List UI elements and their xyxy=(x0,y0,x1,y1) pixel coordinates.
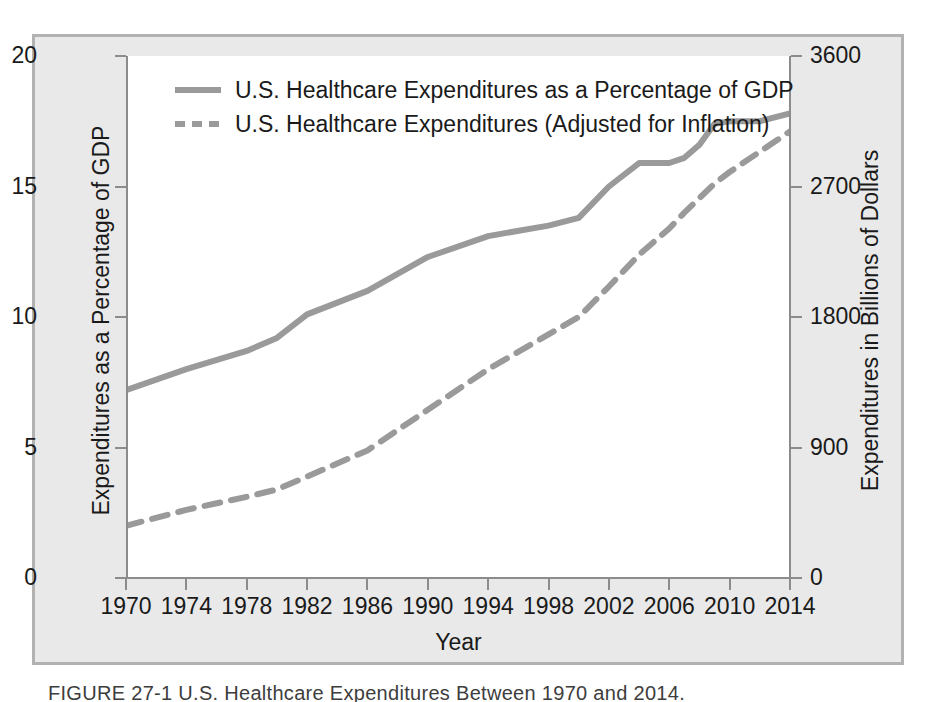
y-axis-right-tick xyxy=(791,577,802,579)
y-axis-left-tick xyxy=(115,447,126,449)
y-axis-right-tick-label: 3600 xyxy=(810,44,861,67)
x-axis-tick xyxy=(427,579,429,590)
legend-item-gdp-percentage: U.S. Healthcare Expenditures as a Percen… xyxy=(175,73,794,107)
y-axis-right-tick-label: 900 xyxy=(810,436,848,459)
x-axis-tick-label: 2014 xyxy=(755,595,825,618)
y-axis-left-tick-label: 20 xyxy=(11,44,37,67)
legend-label-gdp-percentage: U.S. Healthcare Expenditures as a Percen… xyxy=(235,77,794,104)
y-axis-right-tick xyxy=(791,316,802,318)
y-axis-left-tick-label: 10 xyxy=(11,305,37,328)
x-axis-line xyxy=(126,577,791,579)
x-axis-title: Year xyxy=(126,629,791,656)
legend-swatch-solid-line-icon xyxy=(175,87,221,93)
x-axis-tick xyxy=(306,579,308,590)
series-line-gdp-percentage xyxy=(126,113,790,390)
y-axis-left-tick-label: 15 xyxy=(11,175,37,198)
figure-frame: 0510152009001800270036001970197419781982… xyxy=(32,34,904,665)
y-axis-right-tick-label: 0 xyxy=(810,566,823,589)
y-axis-right-tick-label: 1800 xyxy=(810,305,861,328)
series-line-expenditures-dollars xyxy=(126,131,790,525)
y-axis-right-title: Expenditures in Billions of Dollars xyxy=(857,111,884,531)
legend-swatch-dashed-line-icon xyxy=(175,121,221,127)
y-axis-left-tick xyxy=(115,55,126,57)
x-axis-tick xyxy=(125,579,127,590)
y-axis-left-tick xyxy=(115,186,126,188)
x-axis-tick xyxy=(185,579,187,590)
y-axis-left-title: Expenditures as a Percentage of GDP xyxy=(88,111,115,531)
x-axis-tick xyxy=(366,579,368,590)
legend-label-expenditures-dollars: U.S. Healthcare Expenditures (Adjusted f… xyxy=(235,111,769,138)
x-axis-tick xyxy=(789,579,791,590)
y-axis-right-tick xyxy=(791,447,802,449)
y-axis-right-tick xyxy=(791,186,802,188)
figure-caption: FIGURE 27-1 U.S. Healthcare Expenditures… xyxy=(48,682,908,702)
y-axis-left-line xyxy=(126,56,128,578)
y-axis-right-tick xyxy=(791,55,802,57)
y-axis-left-tick-label: 0 xyxy=(24,566,37,589)
y-axis-right-tick-label: 2700 xyxy=(810,175,861,198)
legend-item-expenditures-dollars: U.S. Healthcare Expenditures (Adjusted f… xyxy=(175,107,794,141)
chart-legend: U.S. Healthcare Expenditures as a Percen… xyxy=(175,73,794,141)
x-axis-tick xyxy=(548,579,550,590)
x-axis-tick xyxy=(487,579,489,590)
x-axis-tick xyxy=(246,579,248,590)
y-axis-left-tick xyxy=(115,316,126,318)
y-axis-left-tick-label: 5 xyxy=(24,436,37,459)
x-axis-tick xyxy=(608,579,610,590)
x-axis-tick xyxy=(668,579,670,590)
x-axis-tick xyxy=(729,579,731,590)
